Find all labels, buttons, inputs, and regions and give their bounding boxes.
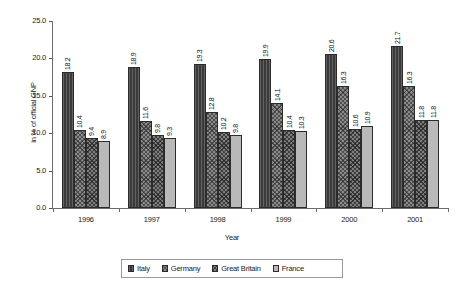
- legend-label: Great Britain: [221, 264, 261, 273]
- x-tick-label-2001: 2001: [385, 215, 445, 224]
- x-tick-mark: [382, 208, 383, 212]
- bar-greatbritain-2001[interactable]: [415, 120, 427, 208]
- bar-value-label: 10.9: [364, 112, 371, 124]
- bar-germany-2001[interactable]: [403, 86, 415, 208]
- x-tick-label-2000: 2000: [319, 215, 379, 224]
- bar-group: 20.616.310.610.9: [316, 21, 382, 208]
- bar-france-2000[interactable]: [361, 126, 373, 208]
- bar-greatbritain-1999[interactable]: [283, 130, 295, 208]
- legend-swatch-greatbritain-icon: [212, 265, 218, 272]
- bar-value-label: 9.8: [232, 124, 239, 133]
- bar-greatbritain-2000[interactable]: [349, 129, 361, 208]
- bar-value-label: 11.6: [142, 107, 149, 119]
- y-tick-label: 25.0: [20, 16, 46, 25]
- plot-area: 18.210.49.48.918.911.69.89.319.312.810.2…: [53, 21, 448, 208]
- bar-italy-2000[interactable]: [325, 54, 337, 208]
- bar-germany-1996[interactable]: [74, 130, 86, 208]
- bar-value-label: 9.4: [88, 127, 95, 136]
- x-tick-mark: [185, 208, 186, 212]
- legend-label: Italy: [137, 264, 150, 273]
- bar-france-1999[interactable]: [295, 131, 307, 208]
- bar-germany-1997[interactable]: [140, 121, 152, 208]
- y-tick-label: 10.0: [20, 128, 46, 137]
- bar-value-label: 19.3: [196, 49, 203, 61]
- legend-label: France: [282, 264, 304, 273]
- bar-italy-1998[interactable]: [194, 64, 206, 208]
- bar-france-1997[interactable]: [164, 138, 176, 208]
- legend-swatch-italy-icon: [128, 265, 134, 272]
- bar-value-label: 10.3: [298, 117, 305, 129]
- y-tick-label: 15.0: [20, 91, 46, 100]
- bar-value-label: 10.4: [286, 116, 293, 128]
- x-tick-label-1997: 1997: [122, 215, 182, 224]
- y-tick-label: 0.0: [20, 203, 46, 212]
- bar-value-label: 10.6: [352, 114, 359, 126]
- bar-france-2001[interactable]: [427, 120, 439, 208]
- y-tick-label: 20.0: [20, 53, 46, 62]
- bar-value-label: 18.2: [64, 57, 71, 69]
- chart-legend: ItalyGermanyGreat BritainFrance: [121, 259, 343, 278]
- legend-swatch-germany-icon: [162, 265, 168, 272]
- bar-value-label: 14.1: [274, 88, 281, 100]
- x-tick-mark: [448, 208, 449, 212]
- bar-value-label: 8.9: [100, 131, 107, 140]
- bar-greatbritain-1996[interactable]: [86, 138, 98, 208]
- bar-value-label: 9.3: [166, 128, 173, 137]
- legend-item-germany[interactable]: Germany: [162, 264, 200, 273]
- bar-value-label: 16.3: [406, 72, 413, 84]
- bar-value-label: 9.8: [154, 124, 161, 133]
- bar-italy-2001[interactable]: [391, 46, 403, 208]
- bar-italy-1997[interactable]: [128, 67, 140, 208]
- legend-label: Germany: [171, 264, 200, 273]
- bar-germany-2000[interactable]: [337, 86, 349, 208]
- x-tick-mark: [53, 208, 54, 212]
- bar-group: 18.911.69.89.3: [119, 21, 185, 208]
- bar-value-label: 19.9: [262, 45, 269, 57]
- bar-germany-1998[interactable]: [206, 112, 218, 208]
- bar-france-1998[interactable]: [230, 135, 242, 208]
- bar-value-label: 18.9: [130, 52, 137, 64]
- legend-swatch-france-icon: [273, 265, 279, 272]
- bar-greatbritain-1997[interactable]: [152, 135, 164, 208]
- bar-germany-1999[interactable]: [271, 103, 283, 208]
- bar-value-label: 10.2: [220, 117, 227, 129]
- bar-value-label: 11.8: [418, 106, 425, 118]
- bar-greatbritain-1998[interactable]: [218, 132, 230, 208]
- bar-chart: in % of official GNP 0.05.010.015.020.02…: [0, 0, 464, 295]
- x-tick-mark: [316, 208, 317, 212]
- legend-item-greatbritain[interactable]: Great Britain: [212, 264, 261, 273]
- x-tick-label-1999: 1999: [253, 215, 313, 224]
- bar-italy-1999[interactable]: [259, 59, 271, 208]
- bar-value-label: 12.8: [208, 98, 215, 110]
- x-tick-label-1996: 1996: [56, 215, 116, 224]
- bar-italy-1996[interactable]: [62, 72, 74, 208]
- bar-value-label: 21.7: [394, 31, 401, 43]
- x-tick-mark: [119, 208, 120, 212]
- bar-group: 19.312.810.29.8: [185, 21, 251, 208]
- bar-group: 19.914.110.410.3: [251, 21, 317, 208]
- bar-value-label: 10.4: [76, 116, 83, 128]
- bar-france-1996[interactable]: [98, 141, 110, 208]
- bar-value-label: 11.8: [430, 106, 437, 118]
- bar-value-label: 20.6: [328, 39, 335, 51]
- bar-group: 18.210.49.48.9: [53, 21, 119, 208]
- bar-group: 21.716.311.811.8: [382, 21, 448, 208]
- legend-item-france[interactable]: France: [273, 264, 304, 273]
- bar-value-label: 16.3: [340, 72, 347, 84]
- legend-item-italy[interactable]: Italy: [128, 264, 150, 273]
- x-axis-title: Year: [0, 233, 464, 242]
- y-tick-label: 5.0: [20, 166, 46, 175]
- x-tick-label-1998: 1998: [188, 215, 248, 224]
- x-tick-mark: [251, 208, 252, 212]
